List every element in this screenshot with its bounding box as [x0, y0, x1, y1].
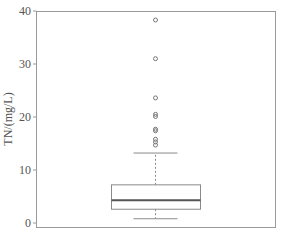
y-axis-label: TN/(mg/L) [1, 92, 15, 145]
outlier-point [154, 18, 158, 22]
y-tick-label: 0 [25, 216, 31, 230]
outlier-point [154, 137, 158, 141]
y-axis: 010203040 [19, 4, 37, 230]
box-plot: 010203040 TN/(mg/L) [0, 0, 282, 236]
y-tick-label: 10 [19, 163, 31, 177]
plot-frame [37, 12, 276, 228]
y-tick-label: 30 [19, 57, 31, 71]
y-tick-label: 40 [19, 4, 31, 18]
iqr-box [112, 185, 201, 209]
box-plot-series [112, 18, 201, 219]
outlier-point [154, 96, 158, 100]
y-tick-label: 20 [19, 110, 31, 124]
outlier-point [154, 57, 158, 61]
